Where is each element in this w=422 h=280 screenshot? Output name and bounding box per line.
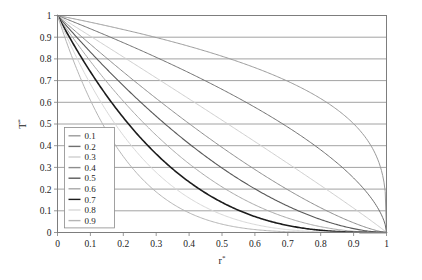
chart-legend: 0.10.20.30.40.50.60.70.80.9 — [65, 128, 115, 228]
legend-label-0.6: 0.6 — [85, 184, 97, 194]
y-tick-label: 0 — [47, 228, 52, 238]
x-tick-label: 0.6 — [249, 239, 261, 249]
x-tick-label: 0.8 — [315, 239, 327, 249]
y-tick-label: 0.2 — [40, 185, 52, 195]
y-tick-label: 0.4 — [40, 141, 52, 151]
y-tick-label: 1 — [47, 11, 52, 21]
y-tick-label: 0.5 — [40, 119, 52, 129]
x-tick-label: 0.7 — [282, 239, 294, 249]
line-chart-svg: 00.10.20.30.40.50.60.70.80.91 00.10.20.3… — [0, 0, 422, 280]
legend-label-0.9: 0.9 — [85, 216, 97, 226]
legend-label-0.4: 0.4 — [85, 163, 97, 173]
x-tick-label: 0.4 — [183, 239, 195, 249]
y-tick-label: 0.7 — [40, 76, 52, 86]
legend-label-0.7: 0.7 — [85, 195, 97, 205]
x-tick-label: 0.9 — [348, 239, 360, 249]
legend-label-0.5: 0.5 — [85, 173, 97, 183]
x-tick-label: 1 — [384, 239, 389, 249]
y-tick-label: 0.9 — [40, 33, 52, 43]
x-tick-label: 0 — [55, 239, 60, 249]
y-tick-label: 0.1 — [40, 206, 52, 216]
x-tick-label: 0.5 — [216, 239, 228, 249]
y-tick-label: 0.3 — [40, 163, 52, 173]
legend-label-0.1: 0.1 — [85, 131, 96, 141]
x-tick-label: 0.3 — [150, 239, 162, 249]
x-tick-label: 0.1 — [84, 239, 96, 249]
y-tick-label: 0.6 — [40, 98, 52, 108]
legend-label-0.3: 0.3 — [85, 152, 97, 162]
legend-label-0.8: 0.8 — [85, 205, 97, 215]
chart-figure: 00.10.20.30.40.50.60.70.80.91 00.10.20.3… — [0, 0, 422, 280]
x-tick-label: 0.2 — [117, 239, 129, 249]
legend-label-0.2: 0.2 — [85, 142, 96, 152]
y-tick-label: 0.8 — [40, 54, 52, 64]
